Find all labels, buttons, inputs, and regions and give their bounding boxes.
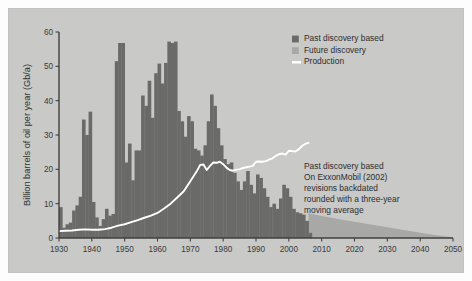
future-discovery-area [309,213,453,238]
x-tick-label: 1930 [50,245,69,254]
discovery-bar [135,150,139,238]
discovery-bar [240,190,244,238]
discovery-bar [121,43,125,238]
discovery-bar [89,112,93,238]
discovery-bar [105,209,109,238]
x-tick-label: 2040 [411,245,430,254]
discovery-bar [272,204,276,238]
discovery-bar [125,162,129,238]
discovery-bar [161,84,165,239]
discovery-bar [85,135,89,238]
y-tick-label: 60 [44,28,54,37]
x-tick-label: 2000 [280,245,299,254]
x-tick-label: 2010 [313,245,332,254]
discovery-bar [92,202,96,238]
discovery-bar [75,205,79,238]
legend-label: Past discovery based [304,33,384,43]
discovery-bar [230,162,234,238]
discovery-bar [151,118,155,238]
discovery-bar [98,226,102,238]
discovery-bar [299,213,303,238]
legend-label: Production [304,56,344,66]
y-tick-label: 10 [44,200,54,209]
discovery-bar [259,178,263,238]
discovery-bar [118,43,122,238]
discovery-bar [309,233,313,238]
discovery-bar [305,221,309,238]
discovery-bar [233,173,237,238]
discovery-bar [256,174,260,238]
x-axis-ticks: 1930194019501960197019801990200020102020… [50,238,463,254]
discovery-bar [286,188,290,238]
x-tick-label: 2050 [444,245,463,254]
discovery-bar [180,121,184,238]
discovery-bar [131,180,135,238]
x-tick-label: 1990 [247,245,266,254]
legend-swatch [292,61,301,63]
discovery-bar [223,159,227,238]
discovery-bar [164,63,168,238]
figure-root: 0102030405060 19301940195019601970198019… [0,0,472,281]
discovery-bar [246,171,250,238]
discovery-bar [226,164,230,238]
y-axis-ticks: 0102030405060 [44,28,59,243]
discovery-bar [253,193,257,238]
annotation-line: moving average [304,205,364,215]
discovery-bar [141,96,145,238]
discovery-bar [62,228,66,238]
discovery-bar [148,81,152,238]
chart-legend: Past discovery basedFuture discoveryProd… [292,33,384,66]
discovery-bar [292,209,296,238]
discovery-bar [82,120,86,238]
discovery-bar [243,181,247,238]
discovery-bar [177,111,181,238]
x-tick-label: 1960 [148,245,167,254]
legend-label: Future discovery [304,45,367,55]
discovery-bar [213,106,217,238]
discovery-bar [263,188,267,238]
discovery-bar [302,215,306,238]
annotation-line: revisions backdated [304,183,378,193]
discovery-bar [217,128,221,238]
discovery-bar [197,150,201,238]
discovery-bar [95,217,99,238]
discovery-bar [282,185,286,238]
annotation-line: On ExxonMobil (2002) [304,172,388,182]
discovery-bar [269,207,273,238]
discovery-bar [289,197,293,238]
x-tick-label: 1940 [83,245,102,254]
discovery-bar [187,116,191,238]
discovery-bar [115,61,119,238]
oil-discovery-production-chart: 0102030405060 19301940195019601970198019… [9,9,465,274]
annotation-line: rounded with a three-year [304,194,400,204]
legend-swatch [292,47,299,54]
discovery-bar [194,149,198,238]
y-axis-title: Billion barrels of oil per year (Gb/a) [22,64,32,206]
x-tick-label: 2020 [345,245,364,254]
chart-annotation: Past discovery basedOn ExxonMobil (2002)… [304,161,400,215]
discovery-bar [249,185,253,238]
x-tick-label: 1970 [181,245,200,254]
discovery-bar [220,145,224,238]
discovery-bar [171,43,175,238]
discovery-bar [79,197,83,238]
y-tick-label: 0 [48,234,53,243]
discovery-bar [236,181,240,238]
discovery-bar [72,211,76,238]
discovery-bar [174,42,178,238]
y-tick-label: 20 [44,165,54,174]
discovery-bar [279,199,283,238]
legend-swatch [292,36,299,43]
discovery-bar [295,212,299,238]
discovery-bar [207,121,211,238]
x-tick-label: 2030 [378,245,397,254]
discovery-bar [138,150,142,238]
discovery-bar [276,209,280,238]
annotation-line: Past discovery based [304,161,384,171]
discovery-bar [200,156,204,238]
y-tick-label: 40 [44,97,54,106]
discovery-bar [167,42,171,238]
discovery-bar [203,145,207,238]
x-tick-label: 1980 [214,245,233,254]
x-tick-label: 1950 [116,245,135,254]
